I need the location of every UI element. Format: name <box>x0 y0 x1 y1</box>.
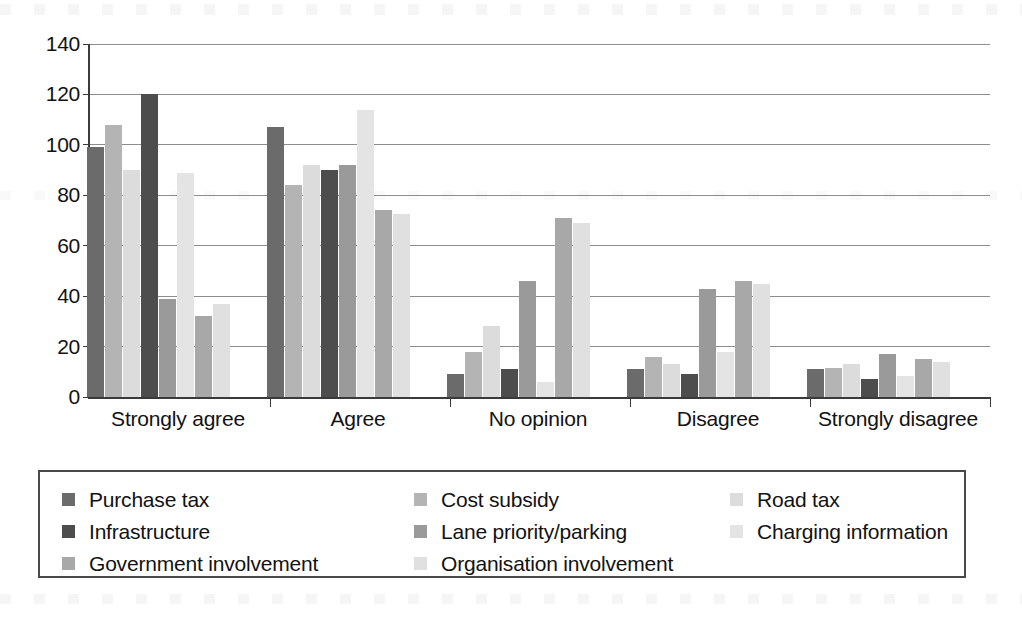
bar <box>375 210 392 397</box>
bar-chart-figure: 020406080100120140 Strongly agreeAgreeNo… <box>0 0 1022 450</box>
legend-item[interactable]: Purchase tax <box>62 484 318 515</box>
bar <box>87 147 104 397</box>
bar <box>699 289 716 397</box>
x-axis-category-label: Agree <box>268 408 448 430</box>
bar <box>735 281 752 397</box>
legend-swatch-icon <box>414 557 427 570</box>
legend-swatch-icon <box>62 525 75 538</box>
legend-item[interactable]: Cost subsidy <box>414 484 673 515</box>
legend-item[interactable]: Road tax <box>730 484 948 515</box>
legend-label: Lane priority/parking <box>441 521 627 543</box>
bar <box>447 374 464 397</box>
scan-speckle-bottom <box>0 594 1022 604</box>
bar <box>177 173 194 397</box>
bar <box>717 352 734 397</box>
bar <box>483 326 500 397</box>
y-tick-label-40: 40 <box>2 285 80 306</box>
y-tick-label-20: 20 <box>2 336 80 357</box>
y-tick-label-100: 100 <box>2 134 80 155</box>
bar <box>357 110 374 397</box>
bar <box>267 127 284 397</box>
x-tick-mark <box>630 397 631 407</box>
bar <box>537 382 554 397</box>
bar <box>141 94 158 397</box>
x-tick-mark <box>810 397 811 407</box>
bar <box>663 364 680 397</box>
bar <box>285 185 302 397</box>
legend-column-3: Road taxCharging information <box>730 484 948 548</box>
legend-label: Organisation involvement <box>441 553 673 575</box>
legend-label: Road tax <box>757 489 839 511</box>
legend-item[interactable]: Infrastructure <box>62 516 318 547</box>
legend-column-2: Cost subsidyLane priority/parkingOrganis… <box>414 484 673 580</box>
legend-swatch-icon <box>414 493 427 506</box>
bar-group <box>87 44 230 397</box>
legend-label: Cost subsidy <box>441 489 559 511</box>
legend-label: Purchase tax <box>89 489 209 511</box>
bar <box>213 304 230 397</box>
x-tick-mark <box>450 397 451 407</box>
legend-column-1: Purchase taxInfrastructureGovernment inv… <box>62 484 318 580</box>
bar-group <box>267 44 410 397</box>
bar <box>645 357 662 397</box>
legend-swatch-icon <box>414 525 427 538</box>
x-axis-category-label: Strongly disagree <box>808 408 988 430</box>
y-tick-label-120: 120 <box>2 83 80 104</box>
plot-area <box>88 44 990 399</box>
bar <box>879 354 896 397</box>
bar <box>123 170 140 397</box>
bar <box>393 214 410 397</box>
bar <box>807 369 824 397</box>
bar-group <box>627 44 770 397</box>
bar <box>915 359 932 397</box>
bar <box>501 369 518 397</box>
legend-swatch-icon <box>730 493 743 506</box>
y-axis-labels: 020406080100120140 <box>0 44 80 397</box>
bar <box>159 299 176 397</box>
bar <box>681 374 698 397</box>
x-axis-category-label: No opinion <box>448 408 628 430</box>
bar <box>339 165 356 397</box>
bar <box>303 165 320 397</box>
bar <box>519 281 536 397</box>
legend-label: Infrastructure <box>89 521 210 543</box>
legend-label: Charging information <box>757 521 948 543</box>
bar <box>843 364 860 397</box>
bar <box>897 376 914 397</box>
bar <box>465 352 482 397</box>
bar <box>825 368 842 397</box>
legend-swatch-icon <box>62 493 75 506</box>
bar <box>573 223 590 397</box>
bar <box>627 369 644 397</box>
x-axis-category-label: Strongly agree <box>88 408 268 430</box>
legend-item[interactable]: Organisation involvement <box>414 548 673 579</box>
legend-item[interactable]: Lane priority/parking <box>414 516 673 547</box>
bar <box>753 284 770 397</box>
legend-swatch-icon <box>730 525 743 538</box>
x-tick-mark <box>270 397 271 407</box>
y-tick-label-140: 140 <box>2 33 80 54</box>
bar <box>933 362 950 397</box>
bar <box>321 170 338 397</box>
bar-group <box>447 44 590 397</box>
chart-legend: Purchase taxInfrastructureGovernment inv… <box>38 470 966 578</box>
x-tick-mark <box>990 397 991 407</box>
x-axis-category-label: Disagree <box>628 408 808 430</box>
legend-item[interactable]: Government involvement <box>62 548 318 579</box>
bar-group <box>807 44 950 397</box>
legend-item[interactable]: Charging information <box>730 516 948 547</box>
bar <box>105 125 122 397</box>
legend-label: Government involvement <box>89 553 318 575</box>
bar <box>861 379 878 397</box>
bar <box>555 218 572 397</box>
y-tick-label-80: 80 <box>2 184 80 205</box>
bar <box>195 316 212 397</box>
y-tick-label-60: 60 <box>2 235 80 256</box>
legend-swatch-icon <box>62 557 75 570</box>
y-tick-label-0: 0 <box>2 386 80 407</box>
